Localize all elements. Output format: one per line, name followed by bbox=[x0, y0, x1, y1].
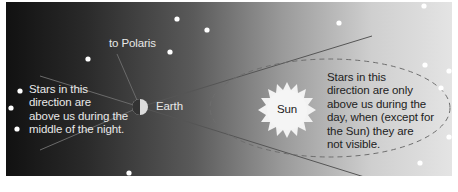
day-stars-caption: Stars in this direction are only above u… bbox=[327, 71, 434, 151]
star bbox=[174, 16, 179, 21]
star bbox=[417, 160, 422, 165]
star bbox=[126, 170, 131, 175]
sun-label: Sun bbox=[277, 103, 297, 116]
caption-line: Stars in this bbox=[327, 71, 434, 84]
star bbox=[167, 49, 172, 54]
caption-line: not visible. bbox=[327, 138, 434, 151]
star bbox=[422, 62, 427, 67]
star bbox=[17, 88, 22, 93]
earth-icon bbox=[132, 99, 148, 115]
caption-line: direction are bbox=[29, 96, 128, 109]
caption-line: Stars in this bbox=[29, 83, 128, 96]
bottom-margin bbox=[6, 176, 452, 192]
star bbox=[204, 27, 209, 32]
caption-line: above us during the bbox=[29, 110, 128, 123]
caption-line: direction are only bbox=[327, 84, 434, 97]
caption-line: above us during the bbox=[327, 98, 434, 111]
star bbox=[336, 20, 341, 25]
star bbox=[421, 3, 426, 8]
caption-line: day, when (except for bbox=[327, 111, 434, 124]
polaris-label: to Polaris bbox=[109, 37, 156, 50]
star bbox=[446, 134, 451, 139]
caption-line: middle of the night. bbox=[29, 123, 128, 136]
earth-label: Earth bbox=[156, 100, 183, 113]
star bbox=[8, 105, 13, 110]
night-stars-caption: Stars in this direction are above us dur… bbox=[29, 83, 128, 137]
star bbox=[14, 126, 19, 131]
star bbox=[85, 56, 90, 61]
caption-line: the Sun) they are bbox=[327, 125, 434, 138]
star bbox=[446, 68, 451, 73]
star bbox=[438, 85, 443, 90]
